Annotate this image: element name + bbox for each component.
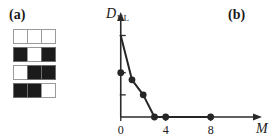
data-point-marker <box>140 91 147 98</box>
data-point-marker <box>151 114 158 121</box>
x-tick-label: 8 <box>208 123 214 137</box>
data-point-marker <box>129 76 136 83</box>
pattern-cell-empty <box>41 29 56 44</box>
data-point-marker <box>117 69 124 76</box>
figure-root: (a) (b) D KL M 048 <box>0 0 272 139</box>
chart-series <box>121 36 211 117</box>
y-axis-title: D <box>105 6 116 21</box>
pattern-grid-row <box>13 83 55 98</box>
pattern-cell-empty <box>27 29 42 44</box>
pattern-cell-filled <box>27 83 42 98</box>
pattern-cell-filled <box>41 65 56 80</box>
pattern-cell-empty <box>41 83 56 98</box>
pattern-grid-row <box>13 65 55 80</box>
pattern-cell-filled <box>13 83 28 98</box>
pattern-cell-filled <box>13 47 28 62</box>
pattern-cell-empty <box>27 47 42 62</box>
x-tick-label: 0 <box>118 123 124 137</box>
panel-label-a: (a) <box>9 7 25 23</box>
x-axis-arrowhead <box>253 113 262 120</box>
pattern-cell-filled <box>41 47 56 62</box>
chart-x-tick-labels: 048 <box>118 123 214 137</box>
kl-divergence-line-chart: D KL M 048 <box>100 0 272 139</box>
pattern-cell-empty <box>13 29 28 44</box>
chart-axes <box>117 12 262 121</box>
data-point-marker <box>207 114 214 121</box>
x-tick-label: 4 <box>163 123 169 137</box>
pattern-cell-filled <box>27 65 42 80</box>
pattern-grid-row <box>13 47 55 62</box>
chart-panel: D KL M 048 <box>100 0 272 139</box>
x-axis-title: M <box>255 121 269 136</box>
data-line-path <box>121 36 211 117</box>
pattern-cell-empty <box>13 65 28 80</box>
data-point-marker <box>162 114 169 121</box>
chart-data-points <box>117 69 214 120</box>
pattern-grid <box>13 29 55 98</box>
pattern-grid-row <box>13 29 55 44</box>
